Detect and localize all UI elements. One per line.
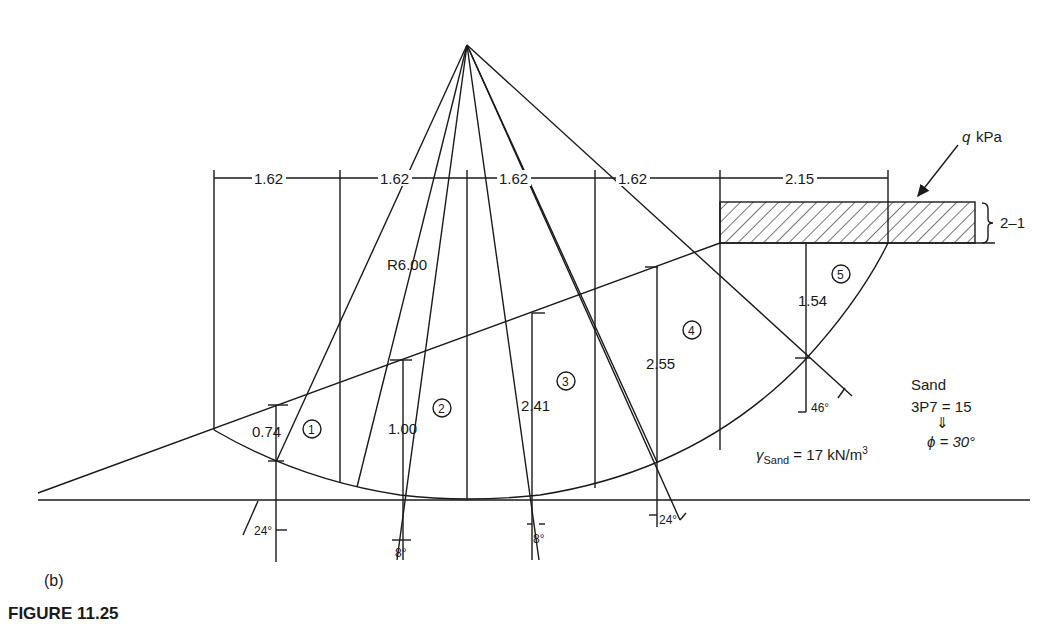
surcharge-thickness-label: 2–1	[1000, 214, 1025, 231]
slice-3-height: 2.41	[521, 397, 550, 414]
slice-5-height: 1.54	[798, 292, 827, 309]
implies-arrow-icon: ⇓	[936, 414, 949, 431]
friction-angle: ϕ = 30°	[927, 433, 975, 450]
width-label-1: 1.62	[254, 170, 283, 187]
angle-label-5: 46°	[811, 401, 829, 415]
angle-label-4: 24°	[659, 513, 677, 527]
angle-label-3: 8°	[533, 532, 545, 546]
width-label-4: 1.62	[618, 170, 647, 187]
unit-weight: γSand = 17 kN/m3	[756, 445, 868, 466]
load-arrow-icon	[918, 145, 958, 196]
angle-label-1: 24°	[254, 524, 272, 538]
slope-face	[38, 243, 720, 493]
svg-text:3: 3	[562, 375, 569, 389]
soil-name: Sand	[911, 376, 946, 393]
slope-stability-diagram: 1.62 1.62 1.62 1.62 2.15 2–1 R6.00 q kPa…	[0, 0, 1058, 632]
slice-4-height: 2.55	[646, 355, 675, 372]
spt-value: 3P7 = 15	[911, 398, 971, 415]
svg-text:2: 2	[438, 402, 445, 416]
width-label-5: 2.15	[785, 170, 814, 187]
angle-ticks	[243, 501, 686, 540]
width-label-3: 1.62	[499, 170, 528, 187]
load-q-label: q	[962, 128, 971, 145]
surcharge-block	[720, 202, 975, 243]
slice-1-height: 0.74	[252, 423, 281, 440]
radius-label: R6.00	[387, 256, 427, 273]
svg-text:1: 1	[308, 423, 315, 437]
slice-2-height: 1.00	[388, 420, 417, 437]
width-label-2: 1.62	[380, 170, 409, 187]
svg-text:5: 5	[837, 268, 844, 282]
figure-caption: FIGURE 11.25	[8, 604, 119, 624]
thickness-brace	[982, 203, 993, 243]
angle-label-2: 8°	[395, 546, 407, 560]
part-label: (b)	[44, 572, 64, 590]
slice-number-markers: 1 2 3 4 5	[303, 265, 850, 438]
load-unit-label: kPa	[976, 128, 1003, 145]
svg-text:4: 4	[688, 324, 695, 338]
radial-lines	[276, 45, 852, 560]
